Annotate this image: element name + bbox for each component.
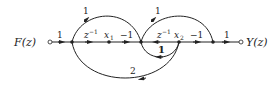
gain-arc2: 1 [155,6,161,16]
output-node [239,40,243,44]
output-label: Y(z) [246,36,268,49]
x2-label: x [174,30,179,40]
gain-z1-b-exp: −1 [162,28,171,35]
gain-out: 1 [224,30,230,40]
gain-m1-a: −1 [120,30,133,40]
input-label: F(z) [13,36,36,49]
arrow-arc-x2-n1 [141,78,146,79]
node-n3 [211,40,215,44]
input-node [48,40,52,44]
node-n2 [139,40,143,44]
gain-arc1: 1 [83,6,89,16]
x1-sub: 1 [110,34,114,41]
x1-label: x [104,30,109,40]
signal-flow-graph: F(z) 1 z −1 x 1 −1 z −1 x 2 −1 1 Y(z) 1 … [0,0,276,87]
arrow-arc-n2-n3 [151,19,154,22]
node-n1 [70,40,74,44]
gain-wide: 2 [130,66,136,76]
gain-loop: 1 [158,44,165,55]
gain-m1-b: −1 [190,30,203,40]
gain-z1-a-exp: −1 [89,28,98,35]
gain-in: 1 [57,30,63,40]
x2-sub: 2 [180,34,184,41]
